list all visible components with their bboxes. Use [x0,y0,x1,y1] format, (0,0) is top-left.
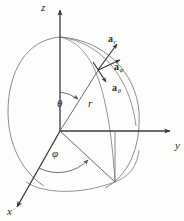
vector-label-a-r: ar [108,34,116,46]
axis-label-y: y [175,140,180,151]
vector-label-a-r-subscript: r [113,38,116,46]
phi-arc [39,160,88,173]
axis-label-x: x [7,206,12,217]
azimuth-projection-line [60,131,115,182]
theta-arc [60,92,78,99]
axis-label-z: z [41,2,45,13]
vector-label-a-theta: aθ [112,83,121,95]
axis-x [17,131,60,207]
radius-line [60,69,99,131]
vector-a-theta [93,62,106,82]
figure-drawing [0,0,184,221]
radius-label: r [88,98,92,109]
vector-label-a-theta-subscript: θ [117,87,120,95]
spherical-coordinates-figure: z y x θ φ r ar aφ aθ [0,0,184,221]
vector-label-a-phi-subscript: φ [119,66,123,74]
vector-label-a-phi: aφ [114,62,123,74]
angle-label-theta: θ [57,98,62,109]
angle-label-phi: φ [52,148,58,159]
